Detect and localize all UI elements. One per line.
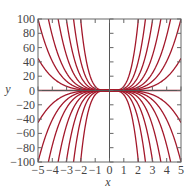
x-tick-label: −3 bbox=[60, 163, 73, 177]
x-tick-label: 3 bbox=[149, 163, 155, 177]
y-tick-label: 40 bbox=[23, 55, 35, 69]
y-tick-label: 60 bbox=[23, 41, 35, 55]
y-tick-label: −80 bbox=[16, 141, 35, 155]
x-axis-label: x bbox=[104, 175, 111, 189]
x-tick-label: 4 bbox=[164, 163, 170, 177]
x-tick-label: −4 bbox=[46, 163, 59, 177]
y-tick-label: −40 bbox=[16, 112, 35, 126]
x-tick-label: 2 bbox=[135, 163, 141, 177]
y-tick-label: −20 bbox=[16, 98, 35, 112]
x-tick-label: −2 bbox=[75, 163, 88, 177]
y-tick-label: 80 bbox=[23, 26, 35, 40]
x-tick-label: 1 bbox=[121, 163, 127, 177]
y-tick-label: 0 bbox=[29, 84, 35, 98]
x-tick-label: −1 bbox=[89, 163, 102, 177]
y-axis-label: y bbox=[4, 82, 11, 96]
y-tick-label: 100 bbox=[17, 12, 35, 26]
chart: −5−4−3−2−1012345 −100−80−60−40−200204060… bbox=[0, 0, 195, 190]
x-tick-label: 5 bbox=[178, 163, 184, 177]
y-tick-label: −60 bbox=[16, 126, 35, 140]
y-tick-label: 20 bbox=[23, 69, 35, 83]
y-tick-label: −100 bbox=[10, 155, 35, 169]
